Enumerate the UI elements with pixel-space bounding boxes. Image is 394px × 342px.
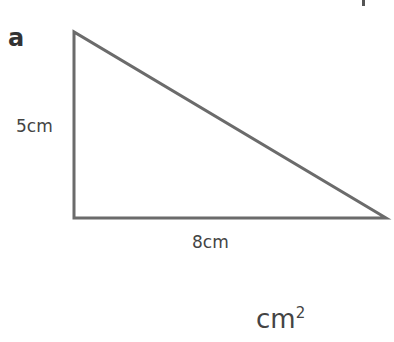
triangle-figure — [0, 0, 394, 342]
base-label: 8cm — [192, 234, 229, 251]
answer-unit-base: cm — [256, 304, 296, 334]
height-label: 5cm — [16, 118, 53, 135]
answer-unit: cm2 — [256, 306, 305, 332]
right-triangle-shape — [74, 32, 386, 218]
answer-unit-power: 2 — [296, 304, 306, 322]
